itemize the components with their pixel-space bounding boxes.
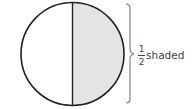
curly-brace	[126, 4, 134, 103]
fraction: 1 2	[138, 44, 145, 67]
numerator: 1	[139, 44, 145, 54]
shaded-half	[73, 3, 125, 106]
label-text: shaded	[146, 49, 184, 61]
fraction-bar	[138, 55, 145, 56]
fraction-label: 1 2 shaded	[138, 42, 184, 68]
denominator: 2	[139, 57, 145, 67]
